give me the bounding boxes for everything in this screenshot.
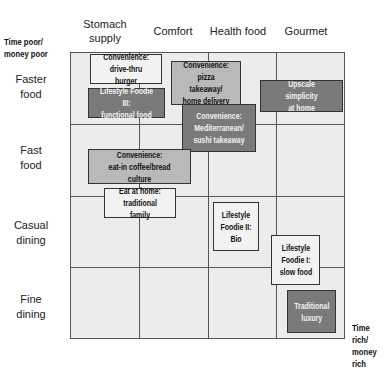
column-header-comfort: Comfort	[139, 24, 207, 38]
box-lifestyle-foodie-i: LifestyleFoodie I:slow food	[271, 235, 320, 285]
box-text: traditional family	[114, 197, 165, 221]
box-text: Foodie II:	[221, 221, 252, 233]
box-text: luxury	[294, 312, 329, 324]
box-upscale-simplicity: Upscale simplicityat home	[260, 80, 343, 112]
box-text: sushi takeaway	[193, 134, 244, 146]
box-mediterranean-sushi-takeaway: Convenience:Mediterranean/sushi takeaway	[182, 104, 256, 152]
box-text: Convenience:	[181, 59, 231, 71]
box-text: Traditional	[294, 300, 329, 312]
box-lifestyle-foodie-ii: LifestyleFoodie II:Bio	[213, 202, 259, 251]
row-header-faster-food: Fasterfood	[0, 72, 62, 102]
box-text: Convenience:	[102, 149, 177, 161]
row-header-fine-dining: Finedining	[0, 292, 62, 322]
box-traditional-luxury: Traditionalluxury	[287, 290, 336, 333]
box-text: pizza takeaway/	[181, 71, 231, 95]
column-header-gourmet: Gourmet	[272, 24, 340, 38]
box-text: Lifestyle	[221, 209, 252, 221]
box-text: Mediterranean/	[193, 122, 244, 134]
box-eat-at-home: Eat at home:traditional family	[104, 188, 176, 218]
box-pizza-takeaway: Convenience:pizza takeaway/home delivery	[171, 61, 241, 105]
box-text: functional food	[99, 109, 154, 121]
box-text: Bio	[221, 233, 252, 245]
box-drive-thru-burger: Convenience:drive-thru burger	[90, 54, 162, 84]
corner-line: money rich	[352, 346, 386, 370]
box-eat-in-coffee-bread: Convenience:eat-in coffee/bread culture	[88, 149, 191, 184]
box-text: Eat at home:	[114, 185, 165, 197]
corner-line: money poor	[4, 48, 48, 60]
time-poor-money-poor-label: Time poor/ money poor	[4, 36, 48, 60]
column-header-health-food: Health food	[204, 24, 272, 38]
box-text: eat-in coffee/bread culture	[102, 161, 177, 185]
box-text: Convenience:	[193, 110, 244, 122]
row-header-fast-food: Fastfood	[0, 143, 62, 173]
box-text: Lifestyle	[279, 242, 312, 254]
column-header-stomach-supply: Stomachsupply	[71, 17, 139, 45]
box-text: slow food	[279, 266, 312, 278]
corner-line: Time poor/	[4, 36, 48, 48]
box-lifestyle-foodie-iii: Lifestyle Foodie III:functional food	[88, 88, 165, 118]
box-text: Lifestyle Foodie III:	[99, 85, 154, 109]
corner-line: Time rich/	[352, 322, 386, 346]
box-text: drive-thru burger	[100, 63, 151, 87]
box-text: Convenience:	[100, 51, 151, 63]
box-text: at home	[272, 102, 332, 114]
row-header-casual-dining: Casualdining	[0, 218, 62, 248]
time-rich-money-rich-label: Time rich/ money rich	[352, 322, 386, 370]
box-text: Upscale simplicity	[272, 78, 332, 102]
box-text: Foodie I:	[279, 254, 312, 266]
